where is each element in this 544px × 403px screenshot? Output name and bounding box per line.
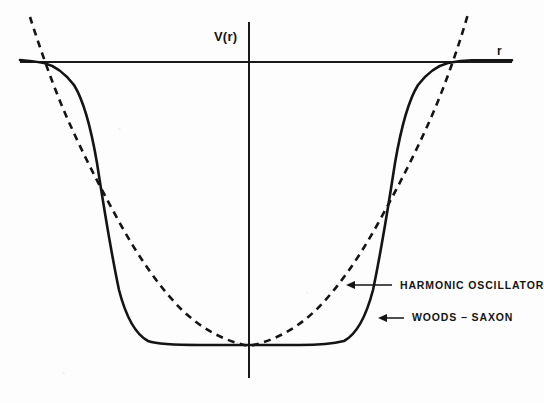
horizontal-axis-label: r bbox=[497, 44, 502, 58]
woods-saxon-leader bbox=[378, 314, 404, 322]
vertical-axis-label: V(r) bbox=[214, 29, 237, 44]
harmonic-oscillator-label: HARMONIC OSCILLATOR bbox=[400, 279, 544, 291]
harmonic-oscillator-leader bbox=[346, 281, 392, 289]
woods-saxon-label: WOODS − SAXON bbox=[412, 311, 513, 323]
